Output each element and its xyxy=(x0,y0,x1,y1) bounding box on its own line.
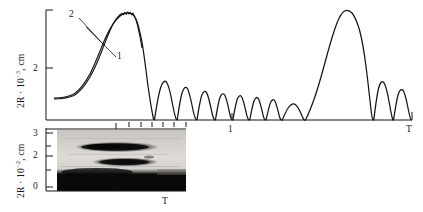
figure-canvas xyxy=(0,0,423,212)
upper-curve-1 xyxy=(54,10,412,120)
photo-top-ticks xyxy=(116,122,186,129)
upper-y-axis xyxy=(46,10,53,120)
figure-root: 2R · 10−3, cm 2R · 10−2, cm 2 1 T 3 2 0 … xyxy=(0,0,423,212)
